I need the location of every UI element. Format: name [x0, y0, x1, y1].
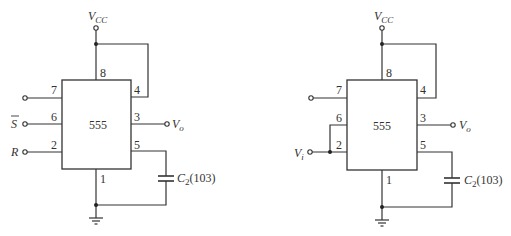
- pin7-terminal: [23, 96, 27, 100]
- chip-label: 555: [373, 119, 391, 133]
- vo-terminal: [165, 122, 169, 126]
- junction-dot: [328, 150, 332, 154]
- vcc-terminal: [380, 26, 384, 30]
- pin-8-label: 8: [100, 66, 106, 80]
- pin-4-label: 4: [134, 83, 140, 97]
- junction-dot: [94, 203, 98, 207]
- vcc-label: VCC: [88, 9, 108, 25]
- pin-2-label: 2: [51, 138, 57, 152]
- pin7-terminal: [309, 96, 313, 100]
- capacitor-ground-wire: [382, 183, 452, 207]
- pin-3-label: 3: [134, 110, 140, 124]
- pin-6-label: 6: [51, 110, 57, 124]
- pin5-wire: [131, 151, 166, 176]
- pin-7-label: 7: [336, 83, 342, 97]
- ground-icon: [89, 218, 103, 224]
- pin-1-label: 1: [386, 173, 392, 187]
- vo-label: Vo: [172, 117, 184, 133]
- pin5-wire: [417, 152, 452, 178]
- right-circuit-555-schmitt-trigger: VCC 555 8 7 6 2 4 3 5 1 Vi Vo C2(103): [294, 9, 503, 226]
- pin-3-label: 3: [420, 111, 426, 125]
- pin-4-label: 4: [420, 83, 426, 97]
- pin-2-label: 2: [336, 138, 342, 152]
- chip-label: 555: [89, 118, 107, 132]
- s-bar-terminal: [23, 122, 27, 126]
- vi-label: Vi: [294, 146, 304, 162]
- pin-8-label: 8: [386, 66, 392, 80]
- pin-7-label: 7: [51, 83, 57, 97]
- junction-dot: [380, 205, 384, 209]
- pin-5-label: 5: [134, 138, 140, 152]
- r-label: R: [10, 145, 19, 159]
- capacitor-label: C2(103): [464, 173, 503, 189]
- left-circuit-555-rs-flipflop: VCC 555 8 7 6 2 4 3 5 1 S R Vo: [10, 9, 216, 224]
- vo-terminal: [451, 123, 455, 127]
- r-terminal: [23, 150, 27, 154]
- circuit-diagrams: VCC 555 8 7 6 2 4 3 5 1 S R Vo: [0, 0, 511, 236]
- pin-6-label: 6: [336, 111, 342, 125]
- capacitor-label: C2(103): [177, 171, 216, 187]
- ground-icon: [375, 220, 389, 226]
- vo-label: Vo: [459, 118, 471, 134]
- s-bar-label: S: [11, 117, 17, 131]
- pin-5-label: 5: [420, 138, 426, 152]
- vcc-label: VCC: [374, 9, 394, 25]
- vi-terminal: [308, 150, 312, 154]
- vcc-terminal: [94, 26, 98, 30]
- pin-1-label: 1: [100, 172, 106, 186]
- capacitor-ground-wire: [96, 181, 166, 205]
